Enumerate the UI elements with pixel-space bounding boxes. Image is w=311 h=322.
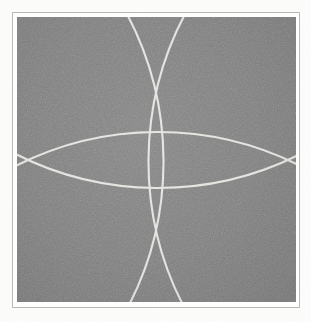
plate-panel bbox=[17, 17, 296, 302]
arc-right-vertical bbox=[124, 17, 164, 302]
figure-page bbox=[0, 0, 311, 322]
arc-lower-horizontal bbox=[17, 150, 296, 188]
rosette-diagram bbox=[17, 17, 296, 302]
arc-upper-horizontal bbox=[17, 132, 296, 170]
arc-group bbox=[17, 17, 296, 302]
arc-left-vertical bbox=[148, 17, 188, 302]
